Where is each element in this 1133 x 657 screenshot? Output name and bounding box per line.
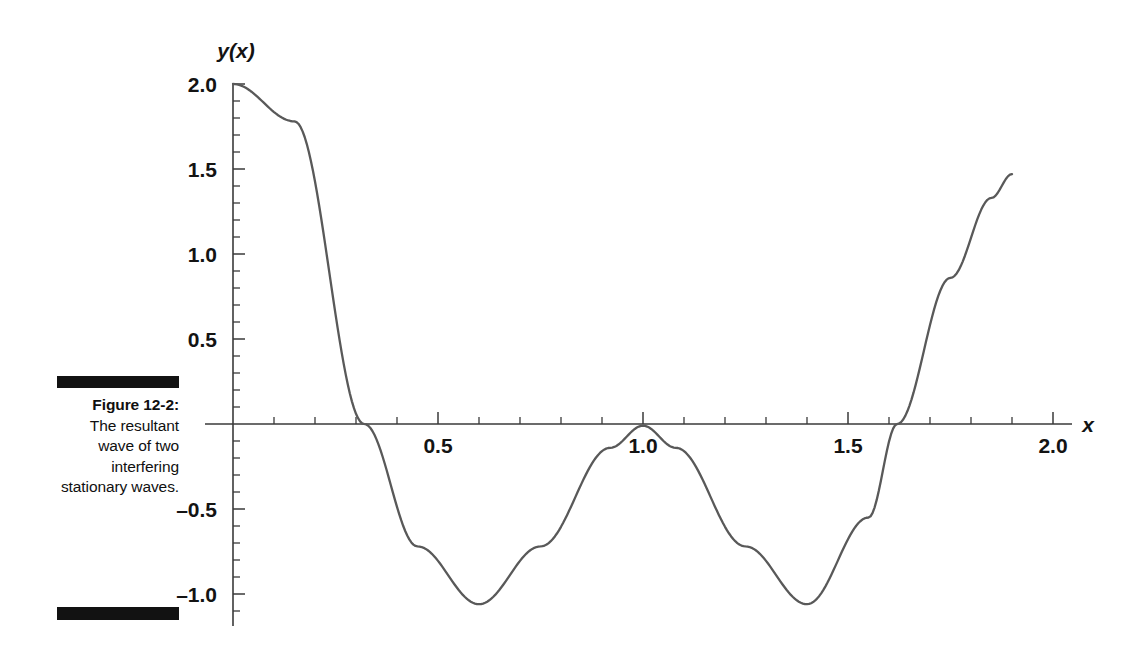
y-tick-label: 1.0 — [188, 243, 217, 266]
x-tick-label: 1.5 — [833, 434, 863, 457]
y-axis-tick-labels: 2.01.51.00.5–0.5–1.0 — [176, 73, 217, 606]
y-axis-title: y(x) — [216, 39, 254, 62]
x-tick-label: 1.0 — [628, 434, 657, 457]
y-axis-ticks — [233, 84, 245, 611]
x-axis-ticks — [274, 412, 1053, 424]
x-tick-label: 0.5 — [423, 434, 453, 457]
y-tick-label: 2.0 — [188, 73, 217, 96]
wave-line-chart: 0.51.01.52.0 2.01.51.00.5–0.5–1.0 x y(x) — [0, 0, 1133, 657]
y-tick-label: –1.0 — [176, 583, 217, 606]
wave-curve-path — [233, 84, 1012, 604]
y-tick-label: 1.5 — [188, 158, 218, 181]
y-tick-label: –0.5 — [176, 498, 217, 521]
chart-axes — [205, 84, 1072, 626]
x-tick-label: 2.0 — [1038, 434, 1067, 457]
y-tick-label: 0.5 — [188, 328, 218, 351]
chart-plot-area: 0.51.01.52.0 2.01.51.00.5–0.5–1.0 x y(x) — [0, 0, 1133, 657]
x-axis-tick-labels: 0.51.01.52.0 — [423, 434, 1067, 457]
x-axis-title: x — [1081, 413, 1095, 436]
